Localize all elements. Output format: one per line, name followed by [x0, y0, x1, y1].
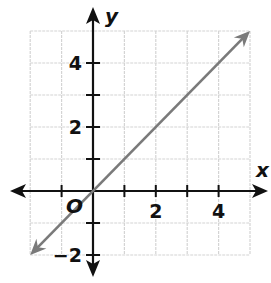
y-tick-label: −2	[53, 244, 82, 266]
x-tick-label: 2	[149, 200, 162, 222]
y-axis-label: y	[105, 4, 119, 28]
origin-label: O	[66, 194, 83, 218]
x-tick-label: 4	[212, 200, 225, 222]
x-axis-label: x	[255, 158, 270, 182]
y-tick-label: 4	[69, 52, 82, 74]
y-tick-label: 2	[69, 116, 82, 138]
coordinate-plane: 2442−2xyO	[0, 0, 271, 283]
